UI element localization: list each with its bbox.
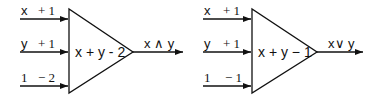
input-label-y: y: [21, 36, 28, 51]
perceptron-and: x + 1 y + 1 1 − 2 x + y - 2 x ∧ y: [20, 3, 183, 93]
weight-bias: − 2: [38, 70, 55, 85]
input-label-y: y: [204, 36, 211, 51]
output-label: x ∧ y: [144, 36, 175, 51]
neuron-expression: x + y − 1: [258, 44, 312, 60]
weight-y: + 1: [223, 36, 240, 51]
weight-bias: − 1: [225, 70, 242, 85]
perceptron-or: x + 1 y + 1 1 − 1 x + y − 1 x∨ y: [203, 3, 363, 93]
input-label-bias: 1: [204, 70, 211, 85]
perceptron-diagram: x + 1 y + 1 1 − 2 x + y - 2 x ∧ y x + 1 …: [0, 0, 380, 100]
input-label-bias: 1: [21, 70, 28, 85]
neuron-expression: x + y - 2: [75, 44, 125, 60]
weight-x: + 1: [38, 3, 55, 18]
input-label-x: x: [21, 3, 28, 18]
weight-x: + 1: [223, 3, 240, 18]
output-label: x∨ y: [328, 36, 355, 51]
input-label-x: x: [204, 3, 211, 18]
weight-y: + 1: [38, 36, 55, 51]
